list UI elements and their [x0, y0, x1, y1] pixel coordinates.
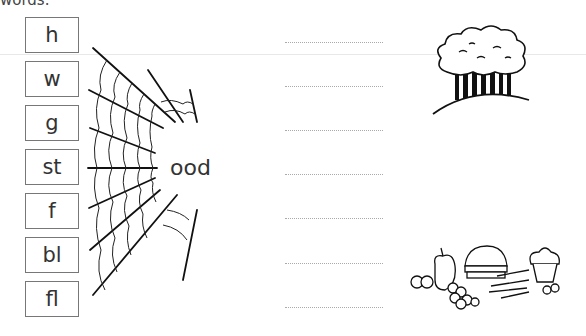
answer-line-7[interactable]	[285, 307, 383, 308]
onset-label: h	[45, 23, 58, 47]
answer-line-6[interactable]	[285, 263, 383, 264]
onset-label: st	[42, 155, 61, 179]
answer-line-1[interactable]	[285, 42, 383, 43]
answer-line-4[interactable]	[285, 174, 383, 175]
rime-ood: ood	[170, 155, 211, 180]
food-icon	[405, 240, 565, 310]
onset-box-fl: fl	[25, 281, 79, 317]
answer-line-2[interactable]	[285, 86, 383, 87]
onset-label: f	[48, 199, 55, 223]
onset-box-f: f	[25, 193, 79, 229]
onset-box-st: st	[25, 149, 79, 185]
answer-line-5[interactable]	[285, 218, 383, 219]
onset-box-h: h	[25, 17, 79, 53]
onset-label: w	[43, 67, 60, 91]
onset-label: g	[45, 111, 58, 135]
answer-line-3[interactable]	[285, 130, 383, 131]
onset-label: bl	[42, 243, 61, 267]
wood-trees-icon	[425, 22, 535, 122]
onset-box-g: g	[25, 105, 79, 141]
instruction-text-cutoff: words.	[0, 0, 49, 9]
onset-box-bl: bl	[25, 237, 79, 273]
onset-box-w: w	[25, 61, 79, 97]
onset-label: fl	[45, 287, 58, 311]
